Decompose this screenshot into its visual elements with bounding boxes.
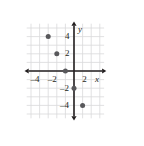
x-axis-label: x: [95, 75, 99, 84]
x-tick-label-neg2: –2: [48, 75, 57, 84]
x-tick-label-neg4: –4: [31, 75, 40, 84]
y-tick-label-neg2: –2: [60, 84, 69, 93]
x-tick-label-2: 2: [82, 75, 87, 84]
y-tick-label-neg4: –4: [60, 101, 69, 110]
coordinate-plane-svg: [0, 0, 144, 146]
y-tick-label-4: 4: [65, 32, 70, 41]
coordinate-plane-figure: –4–2242–2–4 x y: [0, 0, 144, 146]
y-axis-label: y: [78, 25, 82, 34]
y-tick-label-2: 2: [65, 49, 70, 58]
